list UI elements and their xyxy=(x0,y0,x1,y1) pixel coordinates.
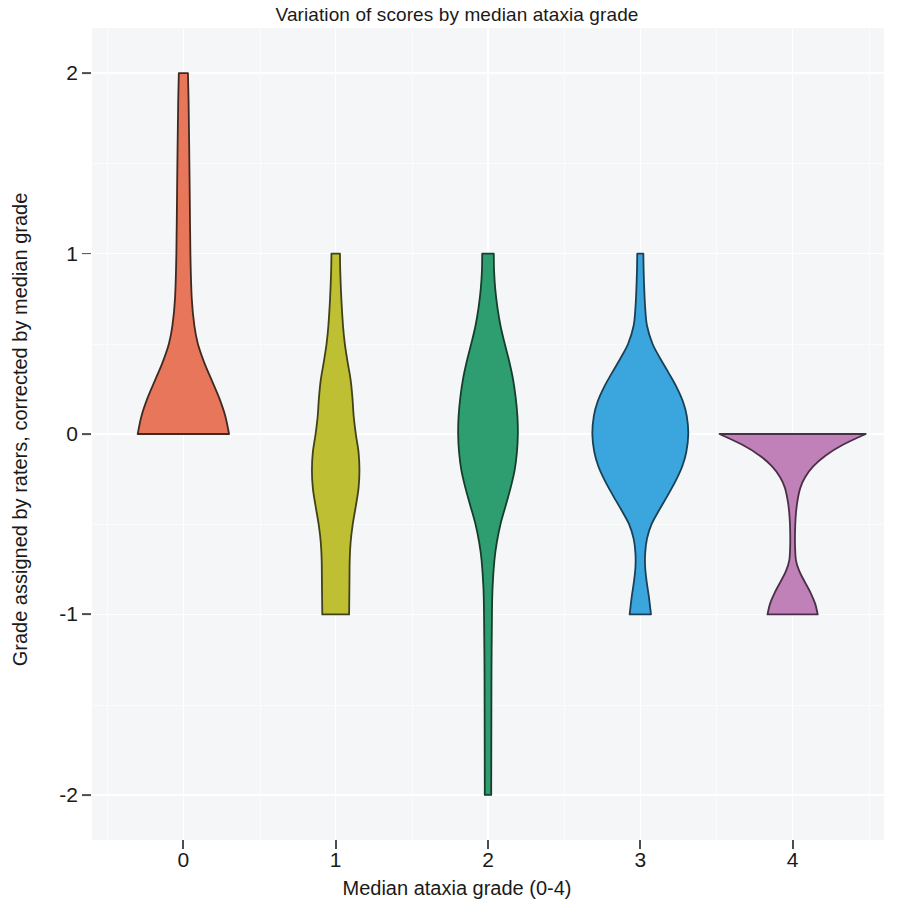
x-tick-mark xyxy=(487,840,489,849)
x-tick-label: 0 xyxy=(153,848,213,872)
y-tick-mark xyxy=(82,614,91,616)
violin-3 xyxy=(592,254,688,615)
y-axis-title-wrap: Grade assigned by raters, corrected by m… xyxy=(0,0,40,914)
x-tick-mark xyxy=(335,840,337,849)
violin-series-layer xyxy=(92,28,884,840)
violin-1 xyxy=(312,254,360,615)
x-tick-mark xyxy=(639,840,641,849)
x-tick-label: 3 xyxy=(610,848,670,872)
x-axis-title: Median ataxia grade (0-4) xyxy=(0,877,914,900)
violin-4 xyxy=(720,434,866,614)
y-tick-mark xyxy=(82,433,91,435)
y-axis-title: Grade assigned by raters, corrected by m… xyxy=(9,20,32,840)
page-title: Variation of scores by median ataxia gra… xyxy=(0,4,914,26)
plot-panel xyxy=(92,28,884,840)
y-tick-mark xyxy=(82,794,91,796)
x-tick-mark xyxy=(792,840,794,849)
violin-0 xyxy=(138,73,229,434)
x-tick-label: 1 xyxy=(306,848,366,872)
x-tick-mark xyxy=(182,840,184,849)
y-tick-mark xyxy=(82,253,91,255)
violin-2 xyxy=(458,254,518,795)
x-tick-label: 4 xyxy=(763,848,823,872)
violin-plot-figure: Variation of scores by median ataxia gra… xyxy=(0,0,914,914)
y-tick-mark xyxy=(82,72,91,74)
x-tick-label: 2 xyxy=(458,848,518,872)
